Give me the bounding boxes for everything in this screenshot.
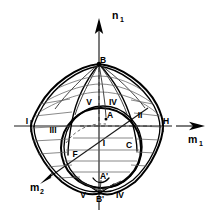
region-label-IV: IV (109, 97, 117, 107)
point-label-B: B (100, 55, 106, 65)
outline-upper-left (31, 64, 99, 126)
hatch-III-2 (35, 112, 72, 116)
figure-container: n 1 m 1 m 2 B A C F H I A' B' I II III I… (0, 0, 212, 210)
axis-label-m2-subscript: 2 (40, 188, 44, 195)
point-label-A: A (107, 110, 113, 120)
region-label-IV-bottom: IV (116, 190, 124, 200)
outline-lower-right-inner (100, 127, 160, 192)
outline-lower-left-inner (34, 127, 100, 192)
point-label-B-prime: B' (96, 194, 104, 204)
hatch-II-5 (136, 152, 155, 153)
point-label-A-prime: A' (100, 171, 108, 181)
technical-diagram: n 1 m 1 m 2 B A C F H I A' B' I II III I… (0, 0, 212, 210)
point-label-F: F (72, 149, 77, 159)
axis-label-m2: m (30, 181, 39, 193)
hatch-II-6 (131, 165, 147, 166)
axis-label-m1: m (188, 133, 197, 145)
axis-label-m1-subscript: 1 (199, 140, 203, 147)
axis-label-n1: n (112, 9, 118, 21)
point-label-H: H (163, 116, 169, 126)
point-label-C: C (126, 140, 132, 150)
hatch-region-III (31, 99, 80, 178)
axis-label-n1-subscript: 1 (120, 16, 124, 23)
dashed-back-rim (66, 124, 106, 143)
hatch-III-1 (40, 99, 70, 104)
region-label-II: II (138, 110, 143, 120)
region-label-V: V (86, 97, 92, 107)
axis-m2-line (48, 108, 148, 178)
region-label-I: I (103, 138, 105, 148)
point-label-I-left: I (26, 116, 28, 126)
outline-lower-right (100, 126, 163, 194)
region-label-III: III (49, 125, 56, 135)
region-label-V-bottom: V (80, 190, 86, 200)
